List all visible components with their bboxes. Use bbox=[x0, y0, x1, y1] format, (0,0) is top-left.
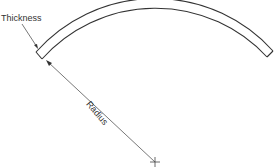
curved-plate-diagram bbox=[0, 0, 276, 167]
right-end-cap bbox=[267, 51, 273, 57]
thickness-label: Thickness bbox=[1, 13, 42, 23]
thickness-leader-line bbox=[22, 24, 37, 47]
left-end-cap bbox=[36, 52, 42, 59]
thickness-arrowhead-icon bbox=[34, 44, 38, 49]
inner-arc bbox=[42, 8, 267, 59]
